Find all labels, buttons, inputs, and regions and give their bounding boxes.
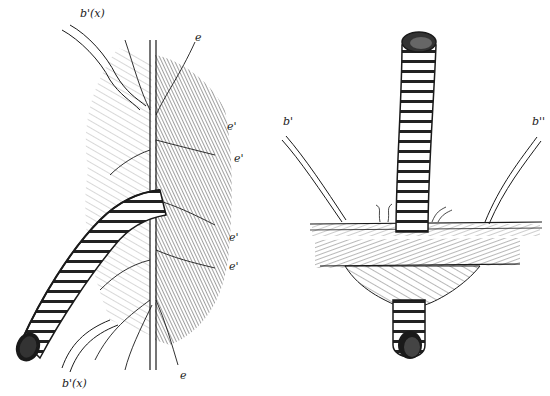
label-b-prime: b' [283,116,293,127]
label-b-x-bottom: b'(x) [62,378,87,389]
label-e-prime-3: e' [229,232,239,243]
left-panel [13,25,232,372]
label-e-prime-2: e' [234,153,244,164]
label-e-top: e [195,32,202,43]
illustration [0,0,550,396]
label-e-prime-1: e' [227,121,237,132]
label-e-bottom: e [180,370,187,381]
label-b-x-top: b'(x) [80,8,105,19]
label-e-prime-4: e' [229,261,239,272]
right-panel [282,32,542,359]
label-b-double-prime: b'' [532,116,545,127]
